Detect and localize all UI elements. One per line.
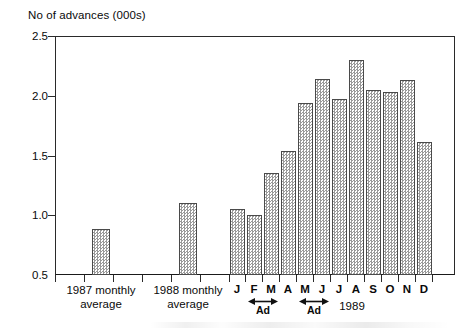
bar-month-aug [349, 60, 364, 275]
bar-month-apr [281, 151, 296, 275]
x-tick-mark [364, 275, 365, 282]
annotation-ad-2-label: Ad [299, 305, 329, 316]
y-axis-title: No of advances (000s) [28, 9, 146, 21]
annotation-ad-1: Ad [248, 297, 278, 316]
x-tick-mark [415, 275, 416, 282]
bar-month-feb [247, 215, 262, 275]
x-tick-mark [245, 275, 246, 282]
x-label-1988-average-line1: 1988 monthly [153, 284, 222, 296]
x-tick-mark [142, 275, 143, 282]
x-tick-mark [313, 275, 314, 282]
x-tick-mark [55, 275, 56, 282]
bar-1987-monthly-average [92, 229, 110, 275]
x-tick-mark [262, 275, 263, 282]
x-tick-mark [279, 275, 280, 282]
x-tick-mark [113, 275, 114, 282]
bar-month-jun [315, 79, 330, 275]
x-tick-mark [84, 275, 85, 282]
double-arrow-icon [299, 297, 329, 306]
bar-month-mar [264, 173, 279, 275]
double-arrow-icon [248, 297, 278, 306]
bar-1988-monthly-average [179, 203, 197, 275]
y-tick-label-1-0: 1.0 [18, 209, 48, 221]
x-tick-mark [398, 275, 399, 282]
page-edge-smudge [150, 322, 450, 328]
x-tick-mark [229, 275, 230, 282]
y-tick-label-2-0: 2.0 [18, 90, 48, 102]
bar-month-jan [230, 209, 245, 275]
bar-month-jul [332, 99, 347, 275]
bar-month-oct [383, 92, 398, 275]
bar-month-may [298, 103, 313, 275]
x-label-month-dec: D [413, 283, 435, 295]
annotation-ad-1-label: Ad [248, 305, 278, 316]
y-tick-mark [48, 215, 55, 216]
annotation-ad-2: Ad [299, 297, 329, 316]
y-tick-mark [48, 36, 55, 37]
x-tick-mark [296, 275, 297, 282]
bar-chart: No of advances (000s) 2.5 2.0 1.5 1.0 0.… [0, 0, 476, 330]
x-tick-mark [330, 275, 331, 282]
bar-month-dec [417, 142, 432, 275]
bar-month-nov [400, 80, 415, 275]
x-label-year-1989: 1989 [339, 300, 365, 312]
y-tick-label-1-5: 1.5 [18, 150, 48, 162]
x-label-1987-average-line2: average [80, 298, 122, 310]
y-tick-mark [48, 96, 55, 97]
x-tick-mark [432, 275, 433, 282]
x-label-1988-average-line2: average [167, 298, 209, 310]
x-tick-mark [200, 275, 201, 282]
y-tick-label-2-5: 2.5 [18, 30, 48, 42]
x-tick-mark [171, 275, 172, 282]
x-tick-mark [347, 275, 348, 282]
bar-month-sep [366, 90, 381, 275]
y-tick-mark [48, 156, 55, 157]
x-tick-mark [381, 275, 382, 282]
y-tick-label-0-5: 0.5 [18, 269, 48, 281]
